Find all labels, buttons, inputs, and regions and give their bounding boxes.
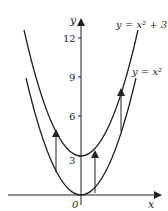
graph: 3 6 9 12 y x 0 y = x² + 3 y = x² [0, 0, 168, 211]
tick-label-6: 6 [69, 111, 75, 122]
tick-label-12: 12 [63, 33, 76, 44]
tick-label-3: 3 [69, 155, 75, 166]
origin-label: 0 [72, 199, 79, 210]
tick-label-9: 9 [69, 72, 75, 83]
y-axis-label: y [69, 14, 77, 27]
x-axis-label: x [148, 198, 155, 211]
label-upper-curve: y = x² + 3 [115, 19, 167, 30]
label-lower-curve: y = x² [131, 66, 162, 77]
